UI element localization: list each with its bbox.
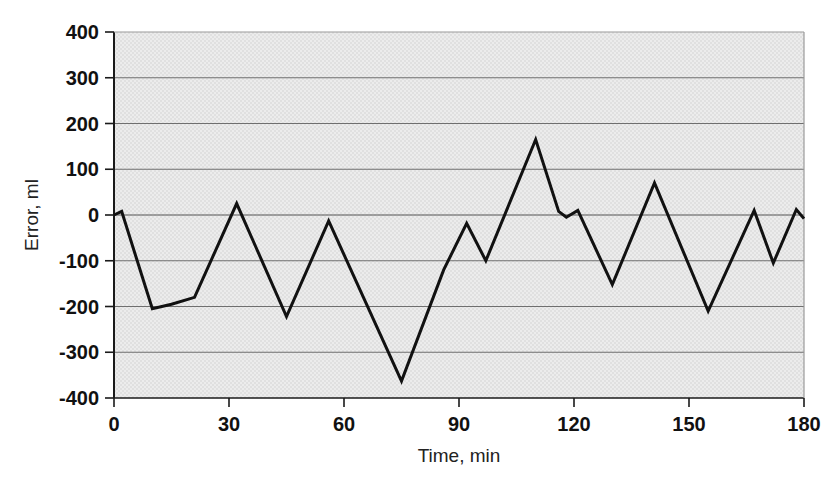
x-tick-label-150: 150 xyxy=(672,413,705,435)
y-axis-title: Error, ml xyxy=(21,179,42,251)
y-tick-label--100: -100 xyxy=(59,250,99,272)
y-tick-label-100: 100 xyxy=(66,158,99,180)
x-tick-label-180: 180 xyxy=(787,413,820,435)
y-tick-label--300: -300 xyxy=(59,341,99,363)
chart-figure: 0306090120150180 -400-300-200-1000100200… xyxy=(0,0,836,480)
y-tick-label-0: 0 xyxy=(88,204,99,226)
x-tick-label-120: 120 xyxy=(557,413,590,435)
y-tick-label-300: 300 xyxy=(66,67,99,89)
x-tick-label-60: 60 xyxy=(333,413,355,435)
x-tick-label-90: 90 xyxy=(448,413,470,435)
y-tick-label-400: 400 xyxy=(66,21,99,43)
x-tick-label-0: 0 xyxy=(108,413,119,435)
x-axis-title: Time, min xyxy=(418,445,501,466)
chart-canvas: 0306090120150180 -400-300-200-1000100200… xyxy=(0,0,836,480)
y-tick-label--400: -400 xyxy=(59,387,99,409)
y-tick-label-200: 200 xyxy=(66,113,99,135)
y-tick-label--200: -200 xyxy=(59,296,99,318)
x-tick-label-30: 30 xyxy=(218,413,240,435)
